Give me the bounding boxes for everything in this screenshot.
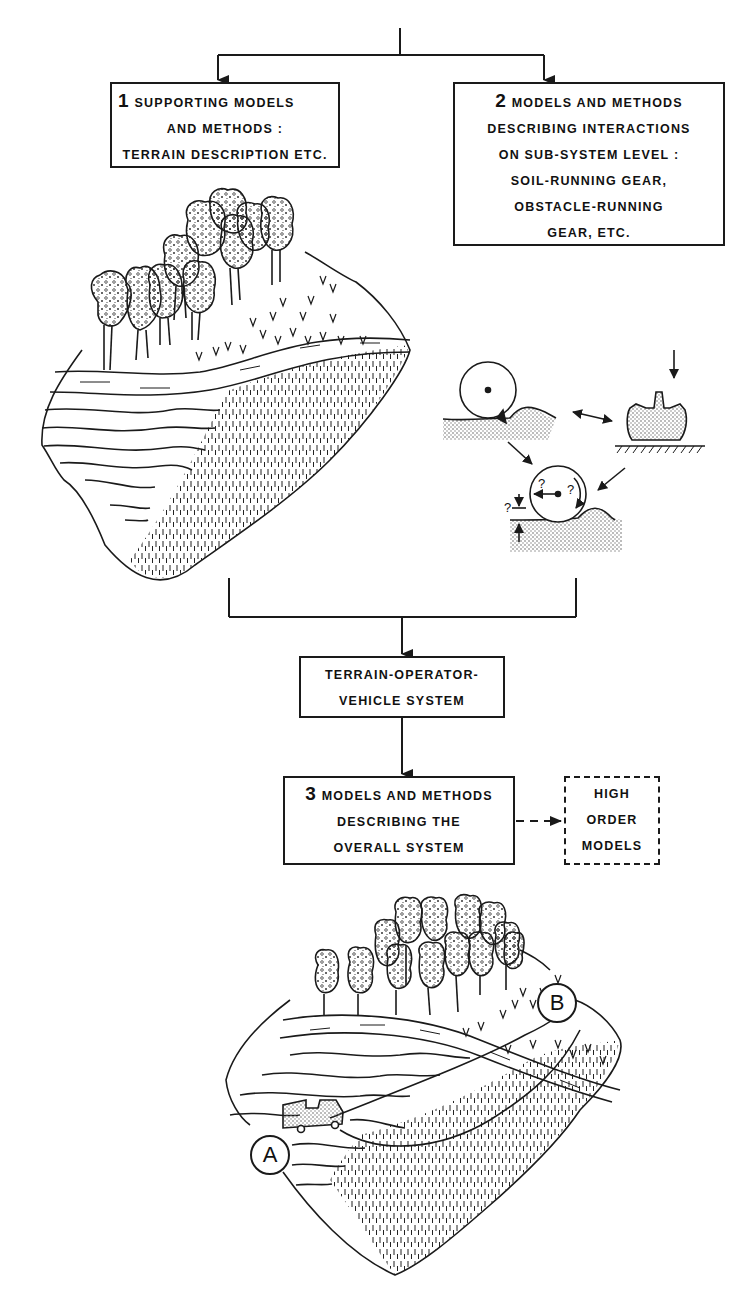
- box1-line-2: AND METHODS :: [112, 116, 338, 142]
- box2-number: 2: [495, 90, 506, 111]
- top-split-connector: [218, 28, 544, 80]
- box3-line-2: VEHICLE SYSTEM: [301, 688, 503, 714]
- box2-text-1: MODELS AND METHODS: [512, 96, 683, 110]
- box1-line-1: 1SUPPORTING MODELS: [112, 88, 338, 116]
- subsystem-interaction-box: 2MODELS AND METHODS DESCRIBING INTERACTI…: [453, 82, 725, 246]
- box2-line-3: ON SUB-SYSTEM LEVEL :: [455, 142, 723, 168]
- tree-cluster: [91, 189, 293, 370]
- question-mark-force: ?: [538, 476, 545, 491]
- tree-cluster: [315, 895, 524, 1015]
- box2-line-1: 2MODELS AND METHODS: [455, 88, 723, 116]
- box4-line-3: OVERALL SYSTEM: [285, 835, 513, 861]
- diagram-canvas: 1SUPPORTING MODELS AND METHODS : TERRAIN…: [0, 0, 734, 1303]
- box4-text-1: MODELS AND METHODS: [322, 789, 493, 803]
- box4-line-2: DESCRIBING THE: [285, 809, 513, 835]
- box5-line-3: MODELS: [566, 833, 658, 859]
- box4-line-1: 3MODELS AND METHODS: [285, 781, 513, 809]
- question-mark-rotation: ?: [567, 482, 574, 497]
- box2-line-4: SOIL-RUNNING GEAR,: [455, 168, 723, 194]
- question-mark-sinkage: ?: [504, 500, 511, 515]
- box3-line-1: TERRAIN-OPERATOR-: [301, 662, 503, 688]
- marker-b: B: [537, 983, 577, 1023]
- truck-icon: [283, 1100, 343, 1133]
- terrain-operator-vehicle-box: TERRAIN-OPERATOR- VEHICLE SYSTEM: [299, 656, 505, 718]
- box5-line-1: HIGH: [566, 781, 658, 807]
- grass-tufts: [196, 276, 366, 360]
- box4-number: 3: [305, 783, 316, 804]
- supporting-models-box: 1SUPPORTING MODELS AND METHODS : TERRAIN…: [110, 82, 340, 168]
- box1-line-3: TERRAIN DESCRIPTION ETC.: [112, 142, 338, 168]
- overall-system-box: 3MODELS AND METHODS DESCRIBING THE OVERA…: [283, 776, 515, 865]
- high-order-models-box: HIGH ORDER MODELS: [564, 776, 660, 865]
- marker-a: A: [250, 1135, 290, 1175]
- wheel-interaction-illustration: [443, 350, 705, 552]
- terrain-illustration-bottom: [226, 895, 621, 1275]
- box1-text-1: SUPPORTING MODELS: [135, 96, 295, 110]
- box2-line-5: OBSTACLE-RUNNING: [455, 194, 723, 220]
- terrain-illustration-top: [42, 189, 410, 580]
- box5-line-2: ORDER: [566, 807, 658, 833]
- box2-line-2: DESCRIBING INTERACTIONS: [455, 116, 723, 142]
- box2-line-6: GEAR, ETC.: [455, 220, 723, 246]
- box1-number: 1: [118, 90, 129, 111]
